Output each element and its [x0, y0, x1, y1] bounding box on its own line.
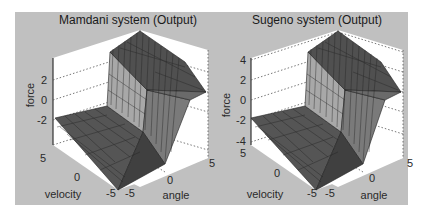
mamdani-title: Mamdani system (Output): [59, 13, 197, 27]
sugeno-velocity-label: velocity: [247, 188, 284, 200]
mamdani-velocity-tick: 0: [74, 172, 80, 183]
mamdani-angle-tick: 0: [167, 175, 173, 186]
sugeno-velocity-tick: -5: [307, 188, 317, 199]
mamdani-surface-graphic: [15, 12, 220, 205]
sugeno-plot: Sugeno system (Output) force 4 2 0 -2 -4…: [213, 12, 408, 205]
mamdani-angle-tick: -5: [125, 188, 135, 199]
mamdani-z-tick: 0: [41, 95, 47, 106]
mamdani-velocity-label: velocity: [45, 188, 82, 200]
sugeno-z-axis-label: force: [220, 93, 232, 117]
mamdani-velocity-tick: -5: [106, 188, 116, 199]
sugeno-angle-tick: 5: [407, 158, 413, 169]
sugeno-angle-tick: 0: [369, 173, 375, 184]
sugeno-z-tick: 4: [240, 55, 246, 66]
sugeno-z-tick: 0: [240, 95, 246, 106]
mamdani-z-axis-label: force: [24, 83, 36, 107]
mamdani-velocity-tick: 5: [40, 153, 46, 164]
sugeno-velocity-tick: 5: [240, 148, 246, 159]
sugeno-velocity-tick: 0: [274, 168, 280, 179]
sugeno-z-tick: -4: [236, 136, 246, 147]
mamdani-plot: Mamdani system (Output) force 2 0 -2 5 0…: [15, 12, 220, 205]
mamdani-z-tick: 2: [41, 75, 47, 86]
figure-canvas: Mamdani system (Output) force 2 0 -2 5 0…: [15, 12, 408, 205]
sugeno-angle-tick: -5: [325, 188, 335, 199]
sugeno-z-tick: -2: [236, 115, 246, 126]
sugeno-title: Sugeno system (Output): [252, 13, 382, 27]
sugeno-surface-graphic: [213, 12, 408, 205]
sugeno-z-tick: 2: [240, 75, 246, 86]
mamdani-z-tick: -2: [37, 115, 47, 126]
mamdani-angle-label: angle: [163, 189, 190, 201]
sugeno-angle-label: angle: [361, 189, 388, 201]
